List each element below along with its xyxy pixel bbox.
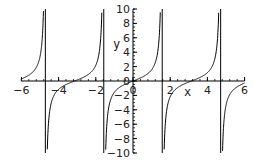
y-tick-label: −2 xyxy=(114,89,130,102)
y-tick-label: 4 xyxy=(123,46,130,59)
tan-branch xyxy=(21,11,43,79)
y-tick-label: 10 xyxy=(116,3,130,16)
y-tick-label: 8 xyxy=(123,17,130,30)
y-tick-label: −10 xyxy=(107,147,130,160)
x-axis-label: x xyxy=(184,85,191,99)
x-tick-label: 2 xyxy=(167,84,174,97)
y-tick-label: 6 xyxy=(123,32,130,45)
y-tick-label: 0 xyxy=(123,75,130,88)
y-tick-label: −8 xyxy=(114,133,130,146)
x-tick-label: 6 xyxy=(241,84,248,97)
y-tick-label: −6 xyxy=(114,118,130,131)
y-tick-label: −4 xyxy=(114,104,130,117)
x-tick-label: −2 xyxy=(88,84,104,97)
y-axis-label: y xyxy=(113,37,120,51)
tan-plot: −6−4−20246−10−8−6−4−20246810 x y xyxy=(0,0,254,164)
x-tick-label: −6 xyxy=(13,84,29,97)
y-tick-label: 2 xyxy=(123,61,130,74)
x-tick-label: −4 xyxy=(50,84,66,97)
x-tick-label: 4 xyxy=(204,84,211,97)
